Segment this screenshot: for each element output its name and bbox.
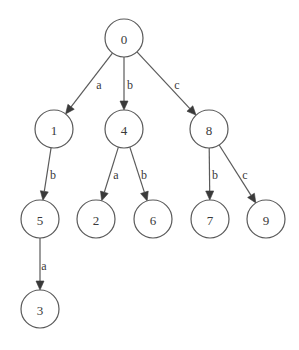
node-3: 3 [21,290,59,328]
node-label: 7 [207,213,214,228]
edge-label: a [41,259,47,273]
edge-label: a [96,78,102,92]
node-5: 5 [21,200,59,238]
edge-1-5: b [40,148,56,200]
node-label: 1 [51,123,58,138]
edge-label: b [50,168,56,182]
trie-diagram: abcbabbca 0148526793 [0,0,299,350]
edge-0-4: b [120,57,133,110]
node-2: 2 [77,200,115,238]
arrowhead-icon [66,104,75,114]
edge-4-6: b [130,147,148,201]
node-4: 4 [105,110,143,148]
arrowhead-icon [141,191,149,201]
edge-0-1: a [66,53,113,114]
edge-label: c [242,168,247,182]
arrowhead-icon [120,101,128,110]
edge-8-7: b [206,148,218,200]
edge-4-2: a [100,147,119,201]
edge-label: b [212,168,218,182]
node-label: 5 [37,213,44,228]
edges-layer: abcbabbca [36,52,256,290]
node-9: 9 [247,200,285,238]
node-8: 8 [190,110,228,148]
node-label: 4 [121,123,128,138]
node-label: 2 [93,213,100,228]
edge-label: c [174,78,179,92]
node-0: 0 [105,19,143,57]
arrowhead-icon [206,191,214,200]
node-label: 9 [263,213,270,228]
arrowhead-icon [100,191,108,201]
edge-line [71,53,112,107]
node-6: 6 [134,200,172,238]
edge-8-9: c [219,145,256,203]
edge-5-3: a [36,238,47,290]
node-1: 1 [35,110,73,148]
edge-label: b [141,168,147,182]
edge-0-8: c [137,52,196,115]
arrowhead-icon [40,191,48,201]
arrowhead-icon [248,193,256,203]
node-label: 8 [206,123,213,138]
node-label: 0 [121,32,128,47]
edge-label: b [127,78,133,92]
arrowhead-icon [36,281,44,290]
node-label: 6 [150,213,157,228]
edge-label: a [113,168,119,182]
node-7: 7 [191,200,229,238]
node-label: 3 [37,303,44,318]
edge-line [137,52,190,109]
